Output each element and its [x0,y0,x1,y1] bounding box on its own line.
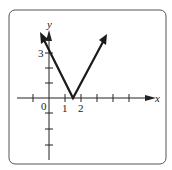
x-axis [17,94,156,102]
x-axis-label: x [154,92,160,104]
origin-label: 0 [41,100,47,112]
x-tick-1: 1 [62,102,68,114]
y-tick-3: 3 [38,47,44,59]
y-axis-label: y [46,18,52,30]
graph: y x 3 0 1 2 [0,0,172,170]
x-tick-2: 2 [78,102,84,114]
frame [9,10,166,164]
function-curve [40,32,107,98]
